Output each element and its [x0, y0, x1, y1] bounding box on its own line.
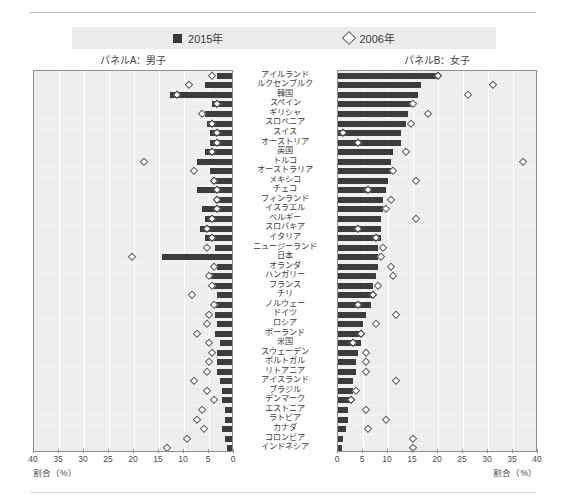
row-separator	[34, 138, 232, 139]
category-label: デンマーク	[234, 395, 336, 403]
bar	[338, 101, 411, 107]
category-label: フィンランド	[234, 195, 336, 203]
diamond-marker	[209, 396, 218, 405]
category-label: ポーランド	[234, 329, 336, 337]
diamond-marker	[204, 358, 213, 367]
axis-tick-label: 0	[335, 454, 340, 464]
bar	[338, 197, 383, 203]
diamond-marker	[204, 310, 213, 319]
diamond-marker	[388, 167, 397, 176]
panel-a-x-axis: 4035302520151050	[33, 454, 233, 466]
axis-tick-mark	[362, 449, 363, 453]
diamond-marker	[378, 243, 387, 252]
bar	[338, 82, 421, 88]
axis-tick-label: 5	[360, 454, 365, 464]
row-separator	[34, 281, 232, 282]
bar	[338, 369, 356, 375]
bar	[338, 273, 376, 279]
diamond-marker	[408, 434, 417, 443]
bar	[222, 426, 232, 432]
bar	[197, 159, 232, 165]
row-separator	[34, 319, 232, 320]
bar	[338, 168, 391, 174]
category-label: 日本	[234, 252, 336, 260]
row-separator	[34, 348, 232, 349]
diamond-marker	[212, 205, 221, 214]
diamond-marker	[391, 377, 400, 386]
bar	[225, 436, 233, 442]
bar	[217, 359, 232, 365]
row-separator	[338, 386, 536, 387]
row-separator	[34, 443, 232, 444]
row-separator	[34, 272, 232, 273]
top-divider	[30, 12, 536, 13]
chart-legend: 2015年 2006年	[72, 27, 496, 49]
category-label: ルクセンブルク	[234, 80, 336, 88]
diamond-marker	[192, 329, 201, 338]
row-separator	[34, 176, 232, 177]
diamond-marker	[197, 405, 206, 414]
bar	[338, 417, 348, 423]
row-separator	[34, 434, 232, 435]
bar	[210, 168, 233, 174]
diamond-marker	[139, 157, 148, 166]
category-label: 韓国	[234, 90, 336, 98]
diamond-marker	[346, 396, 355, 405]
bar	[338, 216, 381, 222]
row-separator	[338, 319, 536, 320]
row-separator	[34, 119, 232, 120]
diamond-marker	[184, 81, 193, 90]
category-labels: アイルランドルクセンブルク韓国スペインギリシャスロベニアスイスオーストリア英国ト…	[234, 70, 336, 452]
legend-item-2006: 2006年	[344, 30, 395, 46]
category-label: ベルギー	[234, 214, 336, 222]
axis-tick-mark	[58, 449, 59, 453]
row-separator	[34, 147, 232, 148]
diamond-marker	[204, 339, 213, 348]
axis-tick-mark	[412, 449, 413, 453]
category-label: スペイン	[234, 99, 336, 107]
axis-tick-label: 20	[432, 454, 441, 464]
bar	[217, 292, 232, 298]
bar	[217, 73, 232, 79]
bar	[222, 388, 232, 394]
diamond-marker	[408, 100, 417, 109]
category-label: オーストラリア	[234, 166, 336, 174]
bar	[205, 82, 233, 88]
axis-tick-label: 35	[507, 454, 516, 464]
diamond-marker	[463, 90, 472, 99]
diamond-marker	[423, 109, 432, 118]
row-separator	[338, 415, 536, 416]
axis-tick-label: 5	[206, 454, 211, 464]
axis-tick-mark	[387, 449, 388, 453]
axis-tick-mark	[83, 449, 84, 453]
panel-a-axis-label: 割合（%）	[33, 466, 77, 478]
bar	[227, 445, 232, 451]
category-label: ノルウェー	[234, 300, 336, 308]
diamond-marker	[212, 100, 221, 109]
row-separator	[34, 100, 232, 101]
row-separator	[338, 329, 536, 330]
row-separator	[34, 262, 232, 263]
diamond-marker	[189, 377, 198, 386]
category-label: 英国	[234, 147, 336, 155]
panel-b-title: パネルB：女子	[404, 52, 471, 67]
legend-label-2006: 2006年	[360, 30, 395, 46]
bar	[217, 264, 232, 270]
bar	[338, 321, 363, 327]
panel-a-title: パネルA：男子	[100, 52, 167, 67]
row-separator	[34, 386, 232, 387]
category-label: コロンビア	[234, 434, 336, 442]
axis-tick-mark	[437, 449, 438, 453]
row-separator	[34, 167, 232, 168]
bar	[338, 350, 358, 356]
row-separator	[34, 128, 232, 129]
axis-tick-label: 15	[153, 454, 162, 464]
axis-tick-label: 30	[482, 454, 491, 464]
category-label: ポルトガル	[234, 357, 336, 365]
row-separator	[34, 214, 232, 215]
bar	[217, 350, 232, 356]
bar	[338, 283, 373, 289]
row-separator	[34, 367, 232, 368]
category-label: スロベニア	[234, 118, 336, 126]
bar	[338, 445, 342, 451]
